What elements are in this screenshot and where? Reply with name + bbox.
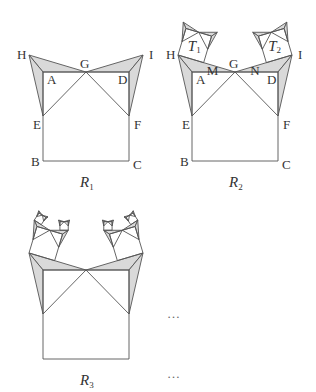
square	[104, 222, 112, 231]
point-label-D: D	[267, 72, 276, 87]
figure-caption-R3: R3	[79, 372, 94, 390]
segment-EG	[60, 222, 64, 226]
segment-GF	[64, 222, 68, 226]
figure-caption-R2: R2	[228, 174, 243, 192]
point-label-A: A	[47, 72, 57, 87]
point-label-C: C	[282, 157, 291, 172]
point-label-F: F	[134, 117, 141, 132]
point-label-B: B	[180, 154, 189, 169]
figure-caption-R1: R1	[79, 174, 94, 192]
point-label-F: F	[283, 117, 290, 132]
point-label-G: G	[229, 56, 238, 71]
point-label-D: D	[118, 72, 127, 87]
segment-EG	[104, 222, 108, 226]
point-label-G: G	[80, 56, 89, 71]
segment-GF	[108, 222, 112, 226]
point-label-E: E	[33, 117, 41, 132]
point-label-C: C	[133, 157, 142, 172]
point-label-N: N	[250, 63, 260, 78]
point-label-M: M	[207, 63, 219, 78]
segment-GF	[86, 270, 129, 314]
fractal-diagram: HAGDIEFBCR1HAGDIEFBCMNT1T2R2R3……	[0, 0, 316, 392]
point-label-B: B	[31, 154, 40, 169]
square-label-T1: T1	[188, 38, 201, 55]
square-label-T2: T2	[268, 38, 281, 55]
square	[60, 222, 68, 231]
ellipsis-2: …	[167, 366, 180, 381]
point-label-E: E	[182, 117, 190, 132]
ellipsis-1: …	[167, 306, 180, 321]
square	[43, 270, 129, 359]
segment-EG	[43, 270, 86, 314]
point-label-H: H	[17, 47, 26, 62]
point-label-I: I	[298, 47, 302, 62]
point-label-I: I	[149, 47, 153, 62]
point-label-A: A	[196, 72, 206, 87]
point-label-H: H	[166, 47, 175, 62]
